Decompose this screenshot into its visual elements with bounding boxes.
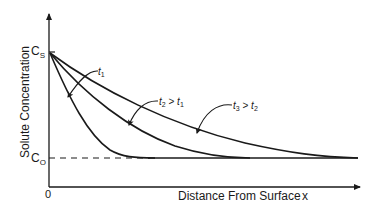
- t2-compare-sub: 1: [180, 101, 184, 108]
- curve-t3: [50, 53, 358, 158]
- cs-label-sub: S: [40, 51, 45, 60]
- x-axis-label: Distance From Surface: [178, 189, 301, 203]
- origin-label: 0: [45, 188, 51, 200]
- t3-pointer-icon: [197, 105, 232, 133]
- y-axis-label: Solute Concentration: [18, 46, 32, 158]
- t3-compare-sub: 2: [254, 105, 258, 112]
- curve-label-t2: t2 > t1: [159, 96, 184, 108]
- cs-label: CS: [31, 44, 45, 60]
- co-label-sub: O: [40, 158, 46, 167]
- t3-compare: >: [240, 100, 251, 111]
- t2-compare: >: [166, 96, 177, 107]
- t1-sub: 1: [101, 71, 105, 78]
- curve-label-t1: t1: [98, 66, 105, 78]
- cs-label-main: C: [31, 44, 40, 58]
- diffusion-profile-figure: Solute Concentration Distance From Surfa…: [0, 0, 377, 217]
- plot-area: [0, 0, 377, 217]
- curve-label-t3: t3 > t2: [233, 100, 258, 112]
- co-label-main: C: [31, 151, 40, 165]
- x-variable-label: x: [302, 189, 308, 203]
- co-label: CO: [31, 151, 46, 167]
